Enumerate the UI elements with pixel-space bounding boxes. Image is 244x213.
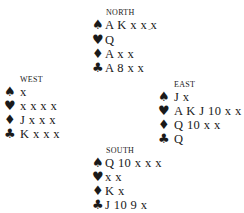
west-diamonds: J x x x — [20, 113, 56, 127]
south-hearts: x x — [105, 170, 122, 184]
south-spades: Q 10 x x x — [105, 156, 162, 170]
diamond-icon: ♦ — [158, 118, 168, 132]
club-icon: ♣ — [4, 127, 14, 141]
south-diamonds: K x — [105, 184, 125, 198]
spade-icon: ♠ — [4, 85, 14, 99]
west-hearts: x x x x — [20, 99, 57, 113]
club-icon: ♣ — [92, 198, 102, 212]
east-hearts: A K J 10 x x — [174, 104, 242, 118]
spade-icon: ♠ — [158, 90, 168, 104]
club-icon: ♣ — [158, 132, 168, 146]
diamond-icon: ♦ — [4, 113, 14, 127]
west-clubs: K x x x — [20, 127, 60, 141]
north-clubs: A 8 x x — [105, 61, 144, 75]
west-spades: x — [20, 85, 27, 99]
east-label: EAST — [174, 80, 195, 89]
south-label: SOUTH — [106, 146, 134, 155]
spade-icon: ♠ — [92, 156, 102, 170]
west-label: WEST — [20, 75, 43, 84]
south-clubs: J 10 9 x — [105, 198, 147, 212]
spade-icon: ♠ — [92, 18, 102, 32]
heart-icon: ♥ — [4, 99, 14, 113]
heart-icon: ♥ — [92, 170, 102, 184]
east-diamonds: Q 10 x x — [174, 118, 221, 132]
east-spades: J x — [174, 90, 189, 104]
diamond-icon: ♦ — [92, 47, 102, 61]
heart-icon: ♥ — [92, 33, 102, 47]
club-icon: ♣ — [92, 61, 102, 75]
heart-icon: ♥ — [158, 104, 168, 118]
stray-mark: - — [148, 24, 151, 34]
north-hearts: Q — [105, 33, 114, 47]
diamond-icon: ♦ — [92, 184, 102, 198]
east-clubs: Q — [174, 132, 183, 146]
north-diamonds: A x x — [105, 47, 134, 61]
north-label: NORTH — [106, 8, 135, 17]
